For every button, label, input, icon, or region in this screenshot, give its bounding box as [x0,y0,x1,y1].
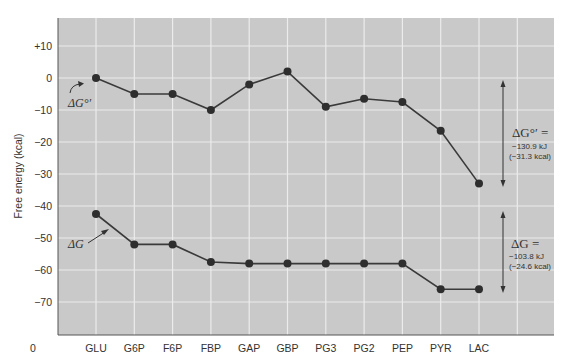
y-tick-label: 0 [46,72,52,84]
y-tick-label: −10 [34,104,52,116]
data-point [92,210,100,218]
x-tick-label: LAC [469,342,490,354]
y-tick-labels: +100−10−20−30−40−50−60−70 [34,40,52,308]
data-point [322,260,330,268]
data-point [245,260,253,268]
data-point [169,90,177,98]
data-point [360,95,368,103]
data-point [437,285,445,293]
x-tick-labels: GLUG6PF6PFBPGAPGBPPG3PG2PEPPYRLAC [85,342,489,354]
data-point [130,90,138,98]
x-tick-label: GLU [85,342,107,354]
y-tick-label: −40 [34,200,52,212]
y-axis-label: Free energy (kcal) [12,133,24,218]
x-tick-label: PG2 [354,342,375,354]
y-tick-label: −60 [34,264,52,276]
svg-text:−130.9 kJ: −130.9 kJ [512,142,547,151]
data-point [207,258,215,266]
svg-text:(−31.3 kcal): (−31.3 kcal) [509,152,551,161]
svg-text:−103.8 kJ: −103.8 kJ [509,252,544,261]
x-tick-label: PEP [392,342,413,354]
svg-text:ΔG =: ΔG = [511,236,539,251]
y-tick-label: −50 [34,232,52,244]
data-point [245,80,253,88]
free-energy-chart: +100−10−20−30−40−50−60−70 GLUG6PF6PFBPGA… [0,0,571,364]
x-tick-label: PG3 [315,342,336,354]
y-tick-label: −30 [34,168,52,180]
data-point [475,180,483,188]
origin-label: 0 [30,342,36,354]
data-point [398,98,406,106]
svg-text:(−24.6 kcal): (−24.6 kcal) [509,262,551,271]
data-point [169,240,177,248]
y-tick-label: −70 [34,296,52,308]
data-point [437,127,445,135]
data-point [475,285,483,293]
data-point [284,68,292,76]
x-tick-label: FBP [201,342,221,354]
x-tick-label: GBP [276,342,298,354]
x-tick-label: PYR [430,342,452,354]
data-point [398,260,406,268]
data-point [92,74,100,82]
svg-text:ΔG°′: ΔG°′ [67,96,92,110]
svg-text:ΔG°′ =: ΔG°′ = [512,125,548,140]
x-tick-label: G6P [124,342,145,354]
x-tick-label: GAP [238,342,260,354]
x-tick-label: F6P [163,342,182,354]
svg-text:ΔG: ΔG [67,237,84,251]
data-point [130,240,138,248]
y-tick-label: −20 [34,136,52,148]
data-point [360,260,368,268]
data-point [207,106,215,114]
data-point [284,260,292,268]
y-tick-label: +10 [34,40,52,52]
data-point [322,103,330,111]
